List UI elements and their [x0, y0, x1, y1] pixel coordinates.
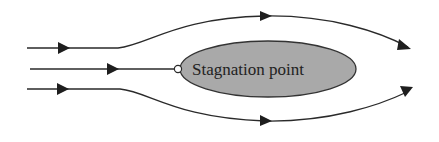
lower-streamline-arrow-1-icon — [57, 83, 69, 95]
lower-streamline-arrow-2-icon — [260, 115, 272, 126]
center-streamline-arrow-icon — [107, 63, 119, 75]
upper-streamline-arrow-2-icon — [260, 11, 272, 21]
stagnation-flow-diagram: Stagnation point — [0, 0, 439, 142]
upper-streamline-arrow-1-icon — [58, 42, 70, 54]
stagnation-point-marker — [174, 65, 181, 72]
lower-streamline — [27, 89, 407, 121]
stagnation-point-label: Stagnation point — [192, 60, 304, 79]
upper-streamline — [27, 16, 408, 48]
lower-streamline-arrowhead-icon — [400, 86, 413, 97]
upper-streamline-arrowhead-icon — [397, 39, 411, 50]
